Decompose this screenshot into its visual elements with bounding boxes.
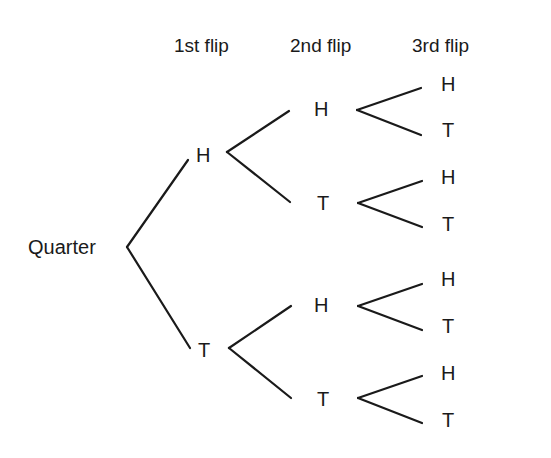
edge-th-to-tht	[358, 306, 422, 330]
level1-node-t: T	[198, 339, 210, 361]
edge-root-to-t	[127, 247, 190, 348]
level2-node-ht: T	[317, 192, 329, 214]
edge-th-to-thh	[358, 284, 422, 306]
coin-flip-tree-diagram: 1st flip 2nd flip 3rd flip Quarter H T H…	[0, 0, 551, 458]
header-3rd-flip: 3rd flip	[412, 35, 469, 56]
level3-leaf-hhh: H	[441, 73, 455, 95]
header-1st-flip: 1st flip	[174, 35, 229, 56]
edge-hh-to-hhh	[357, 88, 421, 110]
level3-leaf-hht: T	[442, 119, 454, 141]
edge-root-to-h	[127, 160, 188, 247]
level3-leaf-htt: T	[442, 213, 454, 235]
edge-t-to-tt	[229, 348, 291, 398]
level2-node-tt: T	[317, 388, 329, 410]
level2-node-th: H	[314, 294, 328, 316]
level2-node-hh: H	[314, 98, 328, 120]
level3-leaf-hth: H	[441, 166, 455, 188]
root-node-quarter: Quarter	[28, 236, 96, 258]
level3-leaf-thh: H	[441, 268, 455, 290]
edge-tt-to-ttt	[358, 398, 422, 423]
level3-leaf-tht: T	[442, 315, 454, 337]
edge-ht-to-htt	[358, 203, 422, 227]
edge-hh-to-hht	[357, 110, 421, 135]
edge-t-to-th	[229, 306, 291, 348]
edge-ht-to-hth	[358, 181, 422, 203]
level3-leaf-ttt: T	[442, 409, 454, 431]
level3-leaf-tth: H	[441, 362, 455, 384]
header-2nd-flip: 2nd flip	[290, 35, 351, 56]
edge-h-to-ht	[227, 152, 290, 202]
level1-node-h: H	[196, 144, 210, 166]
edge-h-to-hh	[227, 111, 289, 152]
edge-tt-to-tth	[358, 376, 422, 398]
